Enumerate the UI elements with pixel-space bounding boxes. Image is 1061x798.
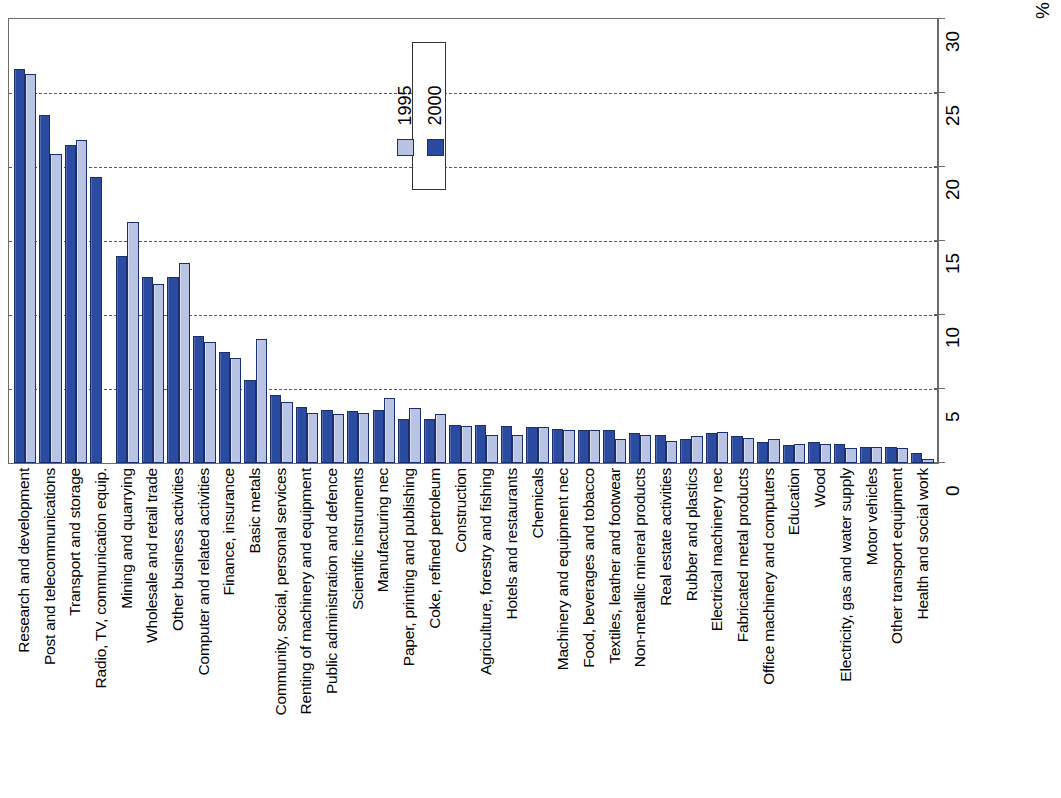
x-label-cell: Machinery and equipment nec <box>550 468 576 793</box>
legend-entry: 1995 <box>395 76 415 156</box>
bar-series-group <box>9 19 937 463</box>
bar-2000 <box>296 407 307 463</box>
bar-group <box>12 19 38 463</box>
bar-2000 <box>783 445 794 463</box>
bar-2000 <box>270 395 281 463</box>
bar-1995 <box>25 74 36 463</box>
x-label-cell: Radio, TV, communication equip. <box>88 468 114 793</box>
x-label-cell: Rubber and plastics <box>679 468 705 793</box>
bar-1995 <box>589 430 600 463</box>
bar-1995 <box>358 413 369 463</box>
bar-2000 <box>655 435 666 463</box>
x-axis-tick-label: Post and telecommunications <box>41 468 59 665</box>
bar-1995 <box>127 222 138 463</box>
x-label-cell: Other transport equipment <box>884 468 910 793</box>
x-axis-tick-label: Wood <box>811 468 829 507</box>
bar-1995 <box>871 447 882 463</box>
bar-group <box>909 19 935 463</box>
dark-blue-swatch <box>427 139 444 156</box>
bar-group <box>602 19 628 463</box>
bar-2000 <box>39 115 50 463</box>
legend-label: 2000 <box>425 85 446 125</box>
x-axis-tick-label: Transport and storage <box>66 468 84 616</box>
bar-1995 <box>230 358 241 463</box>
bar-2000 <box>90 177 101 463</box>
bar-group <box>679 19 705 463</box>
bar-2000 <box>167 277 178 463</box>
x-axis-tick-label: Rubber and plastics <box>683 468 701 601</box>
x-label-cell: Chemicals <box>525 468 551 793</box>
x-axis-tick-label: Agriculture, forestry and fishing <box>477 468 495 675</box>
x-axis-tick-label: Manufacturing nec <box>374 468 392 592</box>
bar-group <box>166 19 192 463</box>
x-label-cell: Non-metallic mineral products <box>628 468 654 793</box>
bar-group <box>627 19 653 463</box>
bar-1995 <box>512 435 523 463</box>
x-axis-tick-label: Community, social, personal services <box>272 468 290 716</box>
bar-1995 <box>615 439 626 463</box>
bar-2000 <box>911 453 922 463</box>
bar-2000 <box>578 430 589 463</box>
bar-1995 <box>563 430 574 463</box>
bar-group <box>704 19 730 463</box>
x-axis-tick-label: Education <box>785 468 803 535</box>
y-tick-label-20: 20 <box>942 154 964 200</box>
x-axis-tick-label: Finance, insurance <box>220 468 238 595</box>
bar-group <box>550 19 576 463</box>
x-label-cell: Construction <box>448 468 474 793</box>
x-label-cell: Research and development <box>11 468 37 793</box>
bar-group <box>576 19 602 463</box>
x-label-cell: Renting of machinery and equipment <box>294 468 320 793</box>
bar-group <box>38 19 64 463</box>
x-label-cell: Finance, insurance <box>217 468 243 793</box>
x-axis-category-labels: Research and developmentPost and telecom… <box>8 468 938 793</box>
bar-2000 <box>603 430 614 463</box>
legend-label-wrap: 1995 <box>395 76 415 134</box>
x-label-cell: Paper, printing and publishing <box>396 468 422 793</box>
x-axis-tick-label: Research and development <box>15 468 33 653</box>
x-axis-tick-label: Textiles, leather and footwear <box>606 468 624 664</box>
legend-label-wrap: 2000 <box>425 76 445 134</box>
x-axis-tick-label: Coke, refined petroleum <box>426 468 444 629</box>
bar-group <box>756 19 782 463</box>
bar-2000 <box>321 410 332 463</box>
x-axis-tick-label: Fabricated metal products <box>734 468 752 642</box>
x-label-cell: Health and social work <box>910 468 936 793</box>
bar-2000 <box>834 444 845 463</box>
bar-1995 <box>794 444 805 463</box>
x-axis-tick-label: Health and social work <box>914 468 932 620</box>
bar-2000 <box>706 433 717 463</box>
bar-1995 <box>820 444 831 463</box>
x-axis-tick-label: Public administration and defence <box>323 468 341 694</box>
bar-1995 <box>50 154 61 463</box>
bar-group <box>858 19 884 463</box>
bar-group <box>474 19 500 463</box>
light-blue-swatch <box>397 139 414 156</box>
x-axis-tick-label: Basic metals <box>246 468 264 553</box>
bar-1995 <box>256 339 267 463</box>
bar-group <box>294 19 320 463</box>
legend-entry: 2000 <box>425 76 445 156</box>
bar-2000 <box>244 380 255 463</box>
bar-group <box>217 19 243 463</box>
x-label-cell: Community, social, personal services <box>268 468 294 793</box>
bar-1995 <box>409 408 420 463</box>
x-label-cell: Agriculture, forestry and fishing <box>473 468 499 793</box>
x-axis-tick-label: Hotels and restaurants <box>503 468 521 620</box>
y-tick-label-25: 25 <box>942 80 964 126</box>
x-label-cell: Public administration and defence <box>319 468 345 793</box>
x-label-cell: Textiles, leather and footwear <box>602 468 628 793</box>
x-axis-tick-label: Non-metallic mineral products <box>631 468 649 667</box>
bar-group <box>833 19 859 463</box>
bar-2000 <box>552 429 563 463</box>
x-axis-tick-label: Real estate activities <box>657 468 675 606</box>
bar-group <box>243 19 269 463</box>
bar-1995 <box>717 432 728 463</box>
bar-group <box>371 19 397 463</box>
y-tick-label-5: 5 <box>942 376 964 422</box>
x-axis-tick-label: Paper, printing and publishing <box>400 468 418 666</box>
bar-2000 <box>193 336 204 463</box>
bar-2000 <box>424 419 435 463</box>
x-label-cell: Motor vehicles <box>859 468 885 793</box>
bar-1995 <box>281 402 292 463</box>
